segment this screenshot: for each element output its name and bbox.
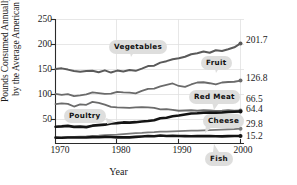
chart-figure: Pounds Consumed Annually by the Average … [0,0,297,185]
callout-poultry[interactable]: Poultry [64,109,106,123]
endpoint-marker-fruit [239,79,243,83]
callout-fish[interactable]: Fish [205,152,233,166]
callout-vegetables[interactable]: Vegetables [109,40,167,54]
endpoint-marker-poultry [239,110,243,114]
callout-red-meat[interactable]: Red Meat [189,90,240,104]
endpoint-marker-fish [239,134,243,138]
endpoint-marker-vegetables [239,41,243,45]
callout-fruit[interactable]: Fruit [201,56,232,70]
plot-area [0,0,297,185]
callout-cheese[interactable]: Cheese [203,114,244,128]
